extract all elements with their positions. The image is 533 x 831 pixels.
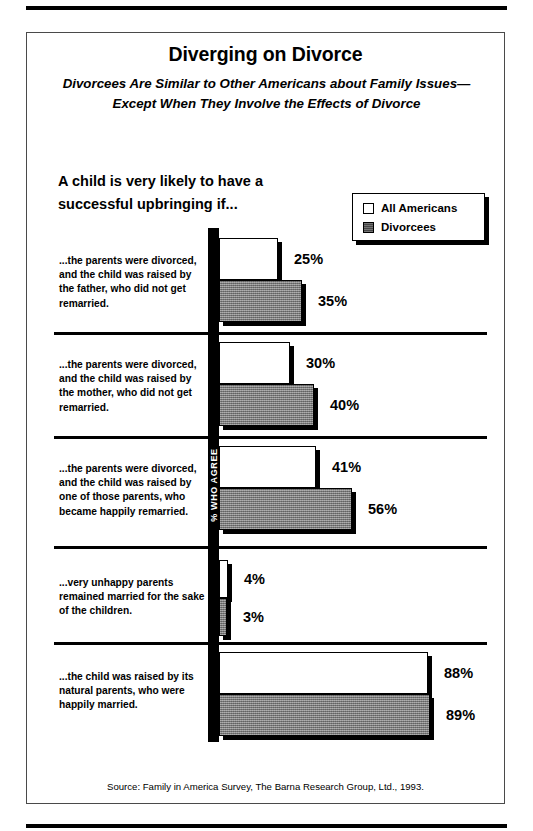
bar-value-label: 4% — [244, 571, 265, 587]
row-label: ...the parents were divorced, and the ch… — [59, 462, 205, 519]
row-label: ...the child was raised by its natural p… — [59, 670, 205, 713]
bar-value-label: 41% — [332, 459, 361, 475]
bar-value-label: 35% — [318, 293, 347, 309]
bar-value-label: 88% — [444, 665, 473, 681]
top-rule — [26, 6, 507, 10]
legend-label-all-americans: All Americans — [381, 202, 457, 214]
row-separator — [54, 642, 487, 645]
bar-rect-all — [219, 446, 316, 488]
chart-row: ...the parents were divorced, and the ch… — [0, 228, 533, 332]
row-separator — [54, 436, 487, 439]
chart-subtitle: Divorcees Are Similar to Other Americans… — [46, 74, 487, 114]
bar-rect-div — [219, 384, 314, 426]
bar-rect-all — [219, 560, 228, 598]
chart-row: ...very unhappy parents remained married… — [0, 546, 533, 642]
source-note: Source: Family in America Survey, The Ba… — [30, 781, 501, 792]
bottom-rule — [26, 824, 507, 828]
bar-rect-div — [219, 598, 227, 636]
white-square-icon — [363, 203, 374, 214]
chart-title: Diverging on Divorce — [30, 43, 501, 66]
bar-value-label: 56% — [368, 501, 397, 517]
bar-rect-div — [219, 280, 302, 322]
row-separator — [54, 332, 487, 335]
row-separator — [54, 546, 487, 549]
bar-value-label: 89% — [446, 707, 475, 723]
row-label: ...the parents were divorced, and the ch… — [59, 254, 205, 311]
axis-caption: % WHO AGREE — [209, 448, 219, 521]
chart-row: ...the child was raised by its natural p… — [0, 642, 533, 742]
bar-value-label: 40% — [330, 397, 359, 413]
bar-value-label: 25% — [294, 251, 323, 267]
bar-value-label: 30% — [306, 355, 335, 371]
chart-row: ...the parents were divorced, and the ch… — [0, 436, 533, 546]
question-header: A child is very likely to have a success… — [58, 170, 328, 216]
bar-rect-div — [219, 694, 430, 736]
row-label: ...very unhappy parents remained married… — [59, 576, 205, 619]
bar-value-label: 3% — [243, 609, 264, 625]
chart-page: Diverging on Divorce Divorcees Are Simil… — [0, 0, 533, 831]
chart-row: ...the parents were divorced, and the ch… — [0, 332, 533, 436]
legend-item-all-americans: All Americans — [363, 199, 484, 217]
bar-rect-div — [219, 488, 352, 530]
bar-rect-all — [219, 652, 428, 694]
row-label: ...the parents were divorced, and the ch… — [59, 358, 205, 415]
bar-rect-all — [219, 238, 278, 280]
axis-band: % WHO AGREE — [208, 228, 219, 742]
chart-rows: ...the parents were divorced, and the ch… — [0, 228, 533, 742]
bar-rect-all — [219, 342, 290, 384]
